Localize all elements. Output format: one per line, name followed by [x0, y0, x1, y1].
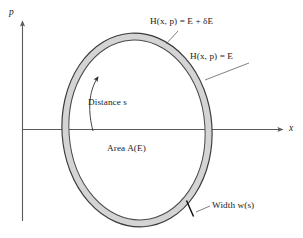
width-label: Width w(s) [212, 201, 254, 210]
area-label: Area A(E) [107, 144, 146, 153]
inner-contour-label: H(x, p) = E [190, 52, 233, 61]
phase-space-figure: p x H(x, p) = E + δE H(x, p) = E Distanc… [0, 0, 303, 238]
y-axis-label: p [9, 8, 14, 18]
figure-canvas [0, 0, 303, 238]
outer-contour-label: H(x, p) = E + δE [150, 17, 213, 26]
distance-label: Distance s [88, 98, 127, 107]
x-axis-label: x [289, 124, 293, 134]
